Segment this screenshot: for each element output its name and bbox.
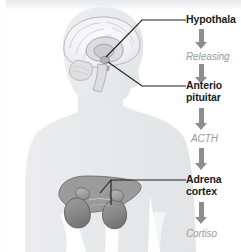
hormone-releasing: Releasing [186,51,230,62]
label-anterior-pituitary-line2: pituitar [186,92,221,104]
label-adrenal-cortex-line2: cortex [186,186,217,198]
hormone-acth: ACTH [191,133,218,144]
label-hypothalamus: Hypothala [186,14,236,25]
label-anterior-pituitary-line1: Anterio [186,80,222,92]
label-adrenal-cortex-line1: Adrena [186,174,222,186]
arrow-down-3 [195,108,208,130]
arrow-down-1 [195,29,208,49]
axis-label-column: Hypothala Releasing Anterio pituitar ACT… [186,0,241,252]
hormone-cortisol: Cortiso [186,228,217,239]
arrow-down-4 [195,148,208,170]
hpa-axis-diagram: Hypothala Releasing Anterio pituitar ACT… [0,0,241,252]
arrow-down-5 [195,202,208,224]
